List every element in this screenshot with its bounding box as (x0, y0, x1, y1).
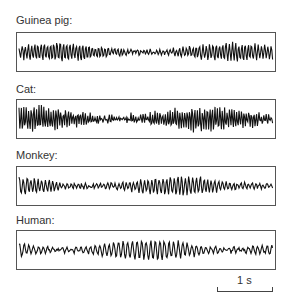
panel-human-label: Human: (16, 214, 55, 226)
panel-human-trace (16, 230, 276, 270)
eeg-trace-human (17, 231, 275, 269)
panel-cat-label: Cat: (16, 83, 36, 95)
scale-bar-label: 1 s (237, 274, 252, 286)
eeg-trace-monkey (17, 167, 275, 205)
eeg-trace-cat (17, 100, 275, 138)
eeg-trace-guinea-pig (17, 33, 275, 71)
panel-monkey-trace (16, 166, 276, 206)
panel-guinea-pig-label: Guinea pig: (16, 14, 72, 26)
panel-monkey-label: Monkey: (16, 149, 58, 161)
panel-cat-trace (16, 99, 276, 139)
panel-guinea-pig-trace (16, 32, 276, 72)
scale-bar (217, 287, 273, 292)
